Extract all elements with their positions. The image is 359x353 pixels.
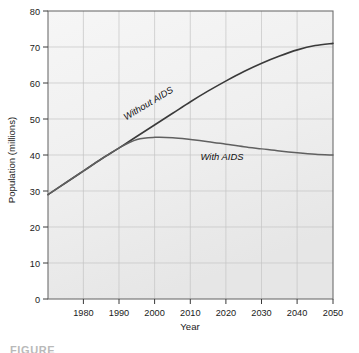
y-tick-label-70: 70 [30, 43, 40, 53]
x-axis-tick-labels: 1980 1990 2000 2010 2020 2030 2040 2050 [73, 308, 343, 318]
y-axis-tick-labels: 0 10 20 30 40 50 60 70 80 [30, 7, 40, 305]
x-tick-label-2050: 2050 [323, 308, 343, 318]
x-tick-label-2000: 2000 [144, 308, 164, 318]
x-axis-title: Year [180, 321, 200, 332]
y-tick-label-40: 40 [30, 151, 40, 161]
y-tick-label-20: 20 [30, 223, 40, 233]
x-tick-label-1990: 1990 [109, 308, 129, 318]
y-tick-label-80: 80 [30, 7, 40, 17]
y-axis-title: Population (millions) [6, 117, 17, 203]
y-tick-label-60: 60 [30, 79, 40, 89]
x-tick-label-2020: 2020 [216, 308, 236, 318]
x-axis-ticks [83, 299, 333, 304]
y-tick-label-30: 30 [30, 187, 40, 197]
figure-caption-partial: FIGURE [10, 345, 55, 353]
y-tick-label-0: 0 [35, 295, 40, 305]
x-tick-label-2040: 2040 [287, 308, 307, 318]
x-tick-label-1980: 1980 [73, 308, 93, 318]
population-line-chart: 0 10 20 30 40 50 60 70 80 1980 1990 2000 [0, 0, 359, 353]
y-tick-label-10: 10 [30, 259, 40, 269]
series-label-with-aids: With AIDS [201, 151, 245, 162]
x-tick-label-2030: 2030 [251, 308, 271, 318]
y-tick-label-50: 50 [30, 115, 40, 125]
figure-root: 0 10 20 30 40 50 60 70 80 1980 1990 2000 [0, 0, 359, 353]
y-axis-ticks [43, 11, 48, 299]
x-tick-label-2010: 2010 [180, 308, 200, 318]
